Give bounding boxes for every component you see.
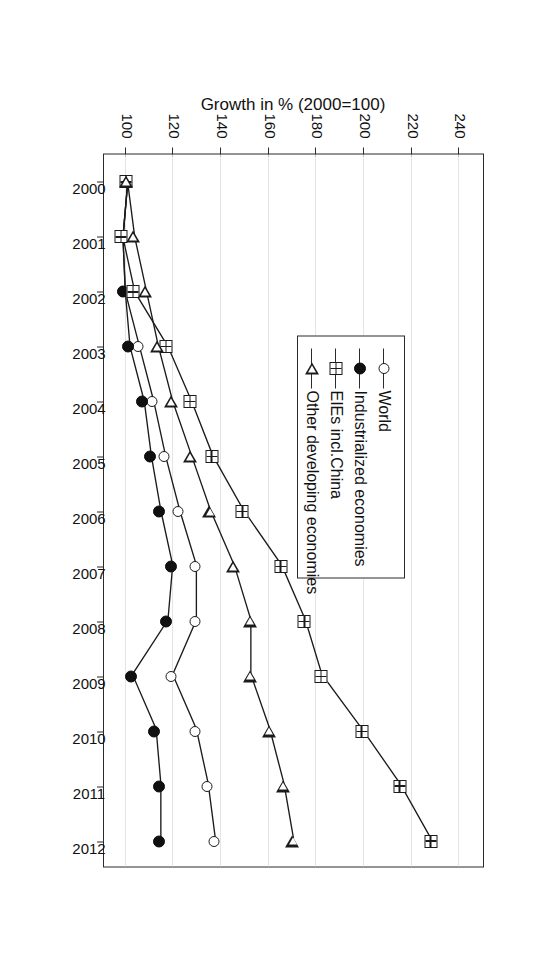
marker-triangle-open-icon	[202, 505, 216, 517]
x-axis-tick-label: 2001	[72, 235, 105, 250]
y-axis-tick	[268, 147, 269, 154]
x-axis-tick-label: 2003	[72, 345, 105, 360]
marker-triangle-open-icon	[164, 395, 178, 407]
plot-area: WorldIndustrialized economiesEIEs incl.C…	[103, 153, 484, 867]
legend-key	[325, 346, 347, 390]
marker-circle-filled-icon	[148, 725, 160, 737]
marker-circle-filled-icon	[125, 670, 137, 682]
marker-square-cross-icon	[298, 614, 311, 627]
y-axis-tick	[172, 147, 173, 154]
marker-square-cross-icon	[330, 362, 343, 375]
x-axis-tick-label: 2002	[72, 290, 105, 305]
marker-triangle-open-icon	[183, 450, 197, 462]
legend-item: EIEs incl.China	[324, 346, 348, 567]
x-axis-tick-label: 2000	[72, 180, 105, 195]
x-axis-tick-label: 2005	[72, 455, 105, 470]
x-axis-tick-label: 2007	[72, 565, 105, 580]
x-axis-tick-label: 2012	[72, 840, 105, 855]
x-axis-tick-label: 2011	[73, 785, 105, 800]
rotated-figure-wrapper: Growth in % (2000=100) 10012014016018020…	[0, 0, 542, 965]
marker-circle-filled-icon	[153, 835, 165, 847]
marker-circle-filled-icon	[160, 615, 172, 627]
marker-triangle-open-icon	[305, 362, 319, 374]
y-axis-tick	[363, 147, 364, 154]
marker-triangle-open-icon	[243, 670, 257, 682]
marker-triangle-open-icon	[226, 560, 240, 572]
marker-square-cross-icon	[274, 559, 287, 572]
legend-item-label: EIEs incl.China	[328, 390, 344, 499]
marker-square-cross-icon	[393, 779, 406, 792]
legend-key	[349, 346, 371, 390]
marker-circle-filled-icon	[153, 505, 165, 517]
marker-triangle-open-icon	[276, 780, 290, 792]
marker-circle-open-icon	[158, 451, 169, 462]
legend-key	[301, 346, 323, 390]
marker-circle-open-icon	[189, 615, 200, 626]
marker-circle-filled-icon	[153, 780, 165, 792]
marker-circle-filled-icon	[136, 395, 148, 407]
chart-legend: WorldIndustrialized economiesEIEs incl.C…	[297, 335, 405, 578]
x-axis-tick-label: 2004	[72, 400, 105, 415]
marker-circle-filled-icon	[122, 340, 134, 352]
marker-square-cross-icon	[355, 724, 368, 737]
legend-item: World	[372, 346, 396, 567]
marker-circle-open-icon	[189, 725, 200, 736]
marker-triangle-open-icon	[262, 725, 276, 737]
x-axis-tick-label: 2009	[72, 675, 105, 690]
x-axis-tick-label: 2010	[72, 730, 105, 745]
marker-triangle-open-icon	[138, 285, 152, 297]
marker-square-cross-icon	[424, 834, 437, 847]
legend-item-label: Other developing economies	[304, 390, 320, 594]
y-axis-tick	[125, 147, 126, 154]
y-axis-tick	[315, 147, 316, 154]
y-axis-tick-label: 140	[215, 113, 230, 138]
marker-triangle-open-icon	[243, 615, 257, 627]
marker-triangle-open-icon	[286, 835, 300, 847]
y-axis-tick-label: 200	[357, 113, 372, 138]
marker-square-cross-icon	[236, 505, 249, 518]
chart-figure: Growth in % (2000=100) 10012014016018020…	[0, 0, 542, 965]
marker-circle-open-icon	[173, 506, 184, 517]
marker-square-cross-icon	[184, 395, 197, 408]
y-axis-tick	[458, 147, 459, 154]
marker-circle-open-icon	[189, 560, 200, 571]
marker-triangle-open-icon	[126, 230, 140, 242]
legend-item: Other developing economies	[300, 346, 324, 567]
marker-circle-filled-icon	[144, 450, 156, 462]
legend-key	[373, 346, 395, 390]
y-axis-tick-label: 160	[262, 113, 277, 138]
y-axis-tick-label: 180	[310, 113, 325, 138]
marker-circle-open-icon	[166, 670, 177, 681]
x-axis-tick-labels: 2000200120022003200420052006200720082009…	[13, 153, 103, 867]
x-axis-tick-label: 2006	[72, 510, 105, 525]
legend-item-label: Industrialized economies	[352, 390, 368, 566]
y-axis-tick	[220, 147, 221, 154]
marker-circle-filled-icon	[354, 362, 366, 374]
y-axis-tick-label: 240	[453, 113, 468, 138]
marker-triangle-open-icon	[119, 175, 133, 187]
marker-circle-open-icon	[379, 363, 390, 374]
marker-circle-open-icon	[208, 835, 219, 846]
y-axis-tick-label: 100	[119, 113, 134, 138]
marker-circle-filled-icon	[165, 560, 177, 572]
marker-square-cross-icon	[205, 450, 218, 463]
marker-square-cross-icon	[315, 669, 328, 682]
y-axis-tick-labels: 100120140160180200220240	[103, 0, 484, 150]
series-line	[123, 182, 173, 838]
legend-item: Industrialized economies	[348, 346, 372, 567]
legend-item-label: World	[376, 390, 392, 432]
y-axis-tick-label: 120	[167, 113, 182, 138]
marker-triangle-open-icon	[150, 340, 164, 352]
marker-circle-open-icon	[201, 780, 212, 791]
y-axis-tick	[411, 147, 412, 154]
x-axis-tick-label: 2008	[72, 620, 105, 635]
y-axis-tick-label: 220	[405, 113, 420, 138]
